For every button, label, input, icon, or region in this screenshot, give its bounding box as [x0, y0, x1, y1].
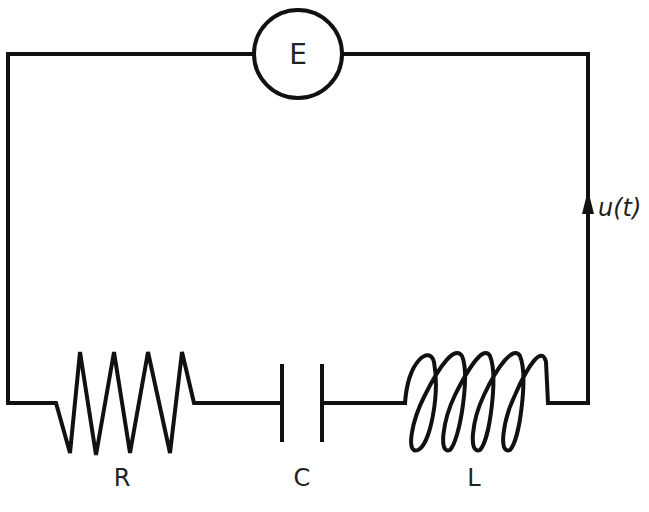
current-arrow-icon [582, 190, 594, 214]
rlc-circuit-diagram: E u(t) R C L [0, 0, 649, 512]
resistor-label: R [114, 464, 131, 492]
inductor-L: L [405, 353, 548, 492]
inductor-coil-icon [405, 353, 548, 451]
resistor-zigzag-icon [8, 352, 278, 455]
capacitor-label: C [294, 464, 311, 492]
voltage-source-E: E [254, 10, 342, 98]
wire-top-right [342, 54, 588, 403]
resistor-R: R [8, 352, 278, 492]
capacitor-C: C [282, 366, 405, 492]
wire-top-left [8, 54, 254, 403]
source-label: E [289, 38, 307, 71]
current-label: u(t) [598, 194, 641, 222]
inductor-label: L [467, 464, 481, 492]
current-indicator: u(t) [582, 190, 641, 222]
